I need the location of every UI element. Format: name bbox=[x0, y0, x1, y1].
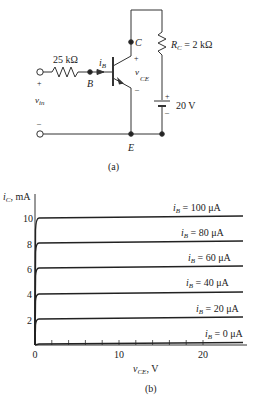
y-tick-2: 2 bbox=[27, 315, 32, 326]
base-node-dot bbox=[88, 70, 93, 75]
input-resistor-icon bbox=[52, 67, 90, 77]
vin-label: vin bbox=[35, 95, 45, 107]
supply-voltage-label: 20 V bbox=[176, 100, 196, 111]
x-axis-label: vCE, V bbox=[133, 363, 159, 376]
battery-plus-sign: + bbox=[165, 92, 170, 101]
curve-label-20: iB = 20 μA bbox=[196, 303, 240, 316]
ground-node-dot bbox=[160, 132, 165, 137]
vin-minus-sign: – bbox=[36, 119, 42, 128]
vce-label: vCE bbox=[135, 67, 150, 83]
input-terminal-negative bbox=[37, 131, 43, 137]
base-current-arrow-icon bbox=[97, 70, 104, 75]
circuit-diagram bbox=[37, 10, 170, 137]
emitter-arrow-icon bbox=[117, 77, 124, 85]
x-tick-20: 20 bbox=[198, 349, 208, 360]
curve-label-40: iB = 40 μA bbox=[186, 277, 230, 290]
vin-plus-sign: + bbox=[37, 79, 42, 88]
rc-resistor-icon bbox=[158, 32, 166, 55]
vce-plus-sign: + bbox=[134, 54, 139, 63]
curve-label-80: iB = 80 μA bbox=[181, 227, 225, 240]
y-tick-8: 8 bbox=[27, 239, 32, 250]
vce-minus-sign: – bbox=[134, 85, 140, 94]
rc-label: RC = 2 kΩ bbox=[170, 39, 212, 52]
collector-node-label: C bbox=[135, 37, 142, 48]
y-tick-6: 6 bbox=[27, 264, 32, 275]
x-tick-labels: 0 10 20 bbox=[33, 349, 209, 360]
curve-label-60: iB = 60 μA bbox=[188, 252, 232, 265]
base-node-label: B bbox=[87, 78, 93, 89]
y-tick-4: 4 bbox=[27, 289, 32, 300]
circuit-caption: (a) bbox=[108, 161, 119, 173]
curve-label-0: iB = 0 μA bbox=[205, 328, 244, 341]
x-tick-0: 0 bbox=[33, 349, 38, 360]
collector-node-dot bbox=[129, 40, 134, 45]
x-tick-10: 10 bbox=[114, 349, 124, 360]
input-resistor-label: 25 kΩ bbox=[53, 54, 78, 65]
chart: 2 4 6 8 10 0 10 20 iC, mA vCE, V iB = 10… bbox=[3, 191, 247, 395]
input-terminal-positive bbox=[37, 69, 43, 75]
y-axis-label: iC, mA bbox=[3, 191, 31, 204]
chart-caption: (b) bbox=[145, 383, 157, 395]
curve-labels: iB = 100 μA iB = 80 μA iB = 60 μA iB = 4… bbox=[173, 202, 244, 341]
emitter-node-label: E bbox=[127, 142, 134, 153]
curve-label-100: iB = 100 μA bbox=[173, 202, 222, 215]
circuit-labels: 25 kΩ iB B C E + – vCE RC = 2 kΩ + – 20 … bbox=[35, 37, 212, 173]
y-tick-labels: 2 4 6 8 10 bbox=[23, 213, 33, 326]
y-tick-10: 10 bbox=[23, 213, 33, 224]
battery-minus-sign: – bbox=[164, 108, 170, 117]
emitter-node-dot bbox=[129, 132, 134, 137]
figure: 25 kΩ iB B C E + – vCE RC = 2 kΩ + – 20 … bbox=[0, 0, 262, 404]
base-current-label: iB bbox=[99, 57, 107, 70]
